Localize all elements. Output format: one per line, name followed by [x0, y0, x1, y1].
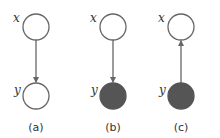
- var-label-x: x: [158, 11, 165, 25]
- node-y-observed: [168, 83, 194, 109]
- node-x-latent: [23, 14, 49, 40]
- caption-a: (a): [28, 121, 43, 134]
- caption-b: (b): [105, 121, 121, 134]
- var-label-y: y: [13, 83, 21, 97]
- var-label-x: x: [90, 11, 97, 25]
- graphical-models-diagram: x y (a) x y (b) x y (c): [0, 0, 220, 138]
- var-label-y: y: [158, 83, 166, 97]
- node-y-observed: [100, 83, 126, 109]
- var-label-x: x: [13, 11, 20, 25]
- var-label-y: y: [90, 83, 98, 97]
- node-y-latent: [23, 83, 49, 109]
- node-x-latent: [168, 14, 194, 40]
- panel-a: x y (a): [13, 11, 49, 134]
- node-x-latent: [100, 14, 126, 40]
- panel-c: x y (c): [158, 11, 194, 134]
- panel-b: x y (b): [90, 11, 126, 134]
- caption-c: (c): [174, 121, 189, 134]
